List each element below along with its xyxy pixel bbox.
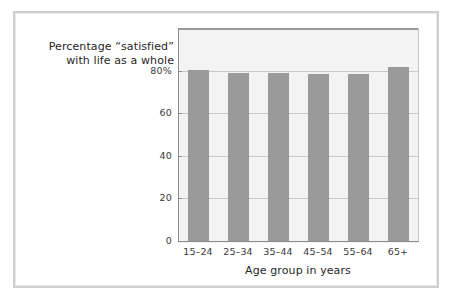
x-axis-tick-label: 45–54 — [298, 246, 338, 257]
y-axis-tick-label: 40 — [160, 150, 173, 161]
x-axis-tick-label: 15–24 — [178, 246, 218, 257]
x-axis-tick-label: 25–34 — [218, 246, 258, 257]
y-axis-tick-label: 20 — [160, 192, 173, 203]
chart-figure: 020406080% 15–2425–3435–4445–5455–6465+ … — [0, 0, 456, 301]
bar — [188, 70, 209, 241]
bar — [228, 73, 249, 241]
bar-series — [178, 28, 418, 241]
y-axis-tick-label: 60 — [160, 107, 173, 118]
y-axis-label: Percentage “satisfied” with life as a wh… — [26, 40, 174, 68]
y-axis-tick — [178, 241, 182, 242]
x-axis-tick-label: 65+ — [378, 246, 418, 257]
bar — [308, 74, 329, 241]
y-axis-label-line-2: with life as a whole — [26, 54, 174, 68]
x-axis-tick-label: 55–64 — [338, 246, 378, 257]
x-axis-line — [178, 241, 419, 242]
bar — [268, 73, 289, 241]
plot-right-edge — [418, 28, 419, 242]
bar — [348, 74, 369, 241]
x-axis-tick-label: 35–44 — [258, 246, 298, 257]
y-axis-label-line-1: Percentage “satisfied” — [49, 40, 174, 53]
bar — [388, 67, 409, 241]
y-axis-tick-label: 0 — [166, 235, 172, 246]
x-axis-label: Age group in years — [178, 264, 418, 277]
